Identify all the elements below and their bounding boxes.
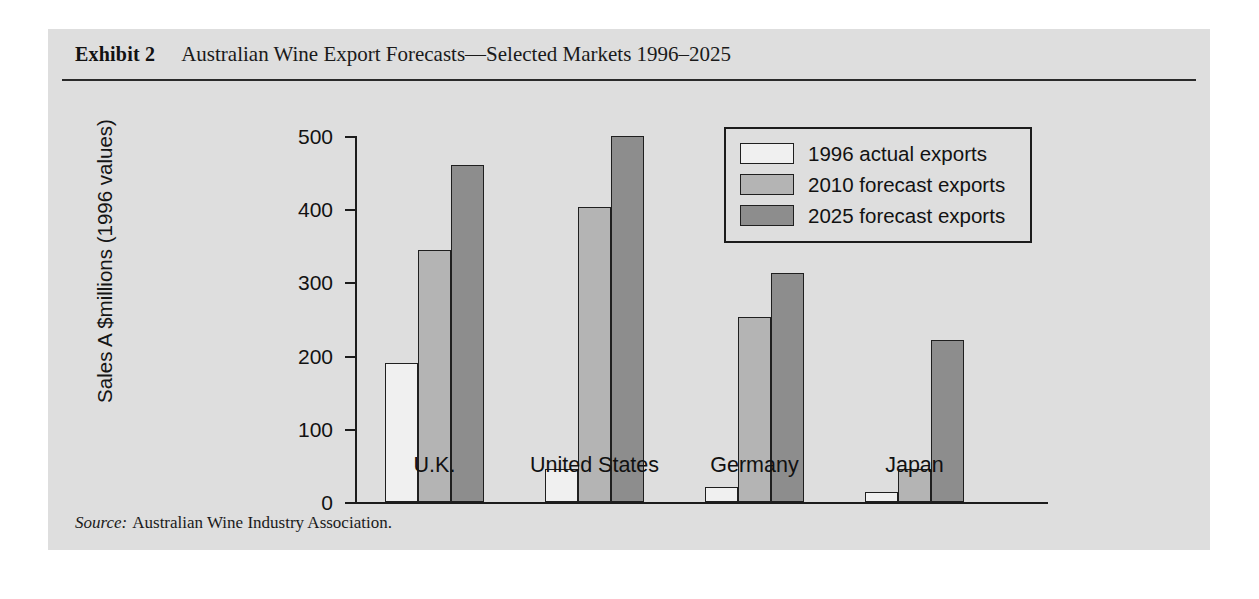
bar-germany-1996: [705, 487, 738, 502]
legend-swatch-icon: [740, 174, 794, 195]
y-axis-tick-label: 400: [275, 199, 333, 220]
exhibit-panel: Exhibit 2 Australian Wine Export Forecas…: [48, 29, 1210, 550]
exhibit-header: Exhibit 2 Australian Wine Export Forecas…: [48, 29, 1210, 79]
y-axis-tick-mark: [345, 429, 355, 431]
bar-united-states-2025: [611, 136, 644, 502]
legend-swatch-icon: [740, 205, 794, 226]
bar-chart: Sales A $millions (1996 values) 01002003…: [48, 81, 1210, 499]
y-axis-tick-mark: [345, 282, 355, 284]
legend-label: 2025 forecast exports: [808, 204, 1005, 228]
y-axis-title: Sales A $millions (1996 values): [93, 101, 117, 421]
source-text: Australian Wine Industry Association.: [132, 513, 392, 532]
x-axis-label-u-k-: U.K.: [360, 453, 510, 478]
legend-swatch-icon: [740, 143, 794, 164]
legend-label: 1996 actual exports: [808, 142, 987, 166]
y-axis-tick-mark: [345, 136, 355, 138]
y-axis-tick-label: 100: [275, 419, 333, 440]
bar-japan-1996: [865, 492, 898, 502]
source-prefix-label: Source:: [75, 513, 127, 532]
y-axis-tick-mark: [345, 209, 355, 211]
legend-label: 2010 forecast exports: [808, 173, 1005, 197]
exhibit-source: Source:Australian Wine Industry Associat…: [75, 513, 392, 533]
x-axis-label-united-states: United States: [520, 453, 670, 478]
chart-legend: 1996 actual exports2010 forecast exports…: [724, 127, 1032, 243]
x-axis-label-japan: Japan: [840, 453, 990, 478]
legend-item: 2025 forecast exports: [740, 200, 1016, 231]
y-axis-tick-label: 500: [275, 126, 333, 147]
exhibit-title: Australian Wine Export Forecasts—Selecte…: [181, 42, 731, 67]
y-axis-tick-label: 200: [275, 346, 333, 367]
y-axis-line: [355, 136, 357, 504]
legend-item: 1996 actual exports: [740, 138, 1016, 169]
y-axis-tick-label: 0: [275, 492, 333, 513]
bar-u-k--2025: [451, 165, 484, 502]
exhibit-label: Exhibit 2: [75, 43, 155, 66]
x-axis-label-germany: Germany: [680, 453, 830, 478]
x-axis-line: [355, 502, 1048, 504]
legend-item: 2010 forecast exports: [740, 169, 1016, 200]
y-axis-tick-mark: [345, 502, 355, 504]
bar-u-k--1996: [385, 363, 418, 502]
y-axis-tick-label: 300: [275, 272, 333, 293]
y-axis-tick-mark: [345, 356, 355, 358]
